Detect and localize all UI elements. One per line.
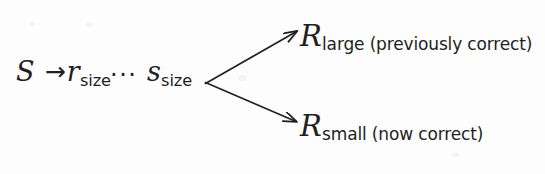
branch-arrow-large <box>206 32 297 84</box>
result-large-tail: large (previously correct) <box>322 34 532 54</box>
figure-canvas: S→rsize ··· ssize Rlarge (previously cor… <box>0 0 545 174</box>
result-small: Rsmall (now correct) <box>300 112 483 143</box>
result-small-base: R <box>300 109 322 143</box>
branch-arrow-small <box>206 83 297 122</box>
result-large-base: R <box>300 19 322 53</box>
result-large: Rlarge (previously correct) <box>300 22 532 53</box>
result-small-tail: small (now correct) <box>322 124 483 144</box>
